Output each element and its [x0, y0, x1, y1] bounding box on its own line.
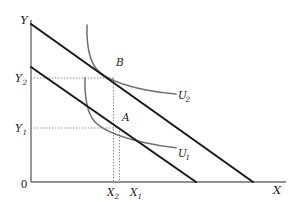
indifference-curve-figure: Y X 0 Y 2 Y 1 X 2 X 1 B A U — [0, 0, 294, 204]
y-axis-label: Y — [20, 13, 29, 27]
indifference-curves-group — [85, 25, 176, 148]
curve-label-u1: U 1 — [178, 147, 190, 162]
tick-label-x2-sub: 2 — [114, 192, 120, 201]
curve-label-u1-sub: 1 — [186, 153, 191, 162]
figure-canvas: Y X 0 Y 2 Y 1 X 2 X 1 B A U — [0, 0, 294, 204]
tick-label-x1: X 1 — [129, 186, 142, 201]
outer-budget-line — [31, 24, 253, 182]
axes-group — [31, 20, 286, 182]
curve-label-u2: U 2 — [178, 89, 191, 104]
tick-label-y1-sub: 1 — [23, 128, 28, 137]
tick-label-x1-sub: 1 — [138, 192, 143, 201]
tick-label-y2-sub: 2 — [22, 78, 28, 87]
origin-label: 0 — [21, 178, 28, 190]
indifference-curve-u2 — [87, 25, 176, 94]
x-axis-label: X — [272, 183, 282, 197]
tick-label-y2: Y 2 — [15, 72, 28, 87]
budget-lines-group — [31, 24, 253, 182]
tick-label-x2: X 2 — [106, 186, 120, 201]
point-label-a: A — [121, 111, 130, 123]
point-label-b: B — [115, 56, 124, 68]
tick-label-y1: Y 1 — [15, 122, 27, 137]
curve-label-u2-sub: 2 — [185, 95, 191, 104]
